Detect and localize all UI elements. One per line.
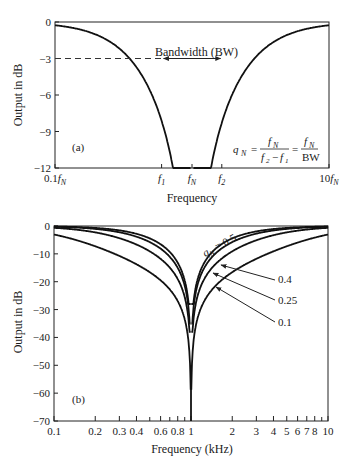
svg-text:1: 1 [285,157,289,165]
chart-a-x-axis: 0.1fNf1fNf210fN [44,164,339,187]
chart-a-xlabel: Frequency [167,191,218,205]
legend-q01: 0.1 [278,316,292,328]
svg-text:−10: −10 [33,248,51,260]
curve-0.5 [54,227,328,305]
legend-pointers [213,265,275,322]
svg-text:0.6: 0.6 [154,425,168,437]
svg-text:4: 4 [271,425,277,437]
svg-text:10: 10 [323,425,335,437]
svg-text:6: 6 [295,425,301,437]
svg-text:−20: −20 [33,276,51,288]
bandwidth-label: Bandwidth (BW) [155,45,238,59]
chart-a-frame [55,22,329,168]
svg-text:=: = [292,143,298,155]
chart-b: 0−10−20−30−40−50−60−70 0.10.20.30.40.60.… [11,220,334,456]
svg-text:=: = [251,143,257,155]
legend-q05: qN = 0.5 [200,231,240,262]
svg-text:0.1: 0.1 [47,425,61,437]
chart-b-xlabel: Frequency (kHz) [151,442,233,456]
svg-text:−9: −9 [39,126,51,138]
svg-text:0.2: 0.2 [88,425,102,437]
svg-text:0.4: 0.4 [130,425,144,437]
svg-text:−50: −50 [33,359,51,371]
svg-text:−: − [272,151,278,163]
svg-text:BW: BW [302,151,320,163]
svg-text:0.1fN: 0.1fN [44,172,67,187]
svg-text:3: 3 [254,425,260,437]
chart-a: 0−3−6−9−12 0.1fNf1fNf210fN Bandwidth (BW… [11,16,339,205]
svg-text:2: 2 [229,425,235,437]
svg-text:f2: f2 [218,172,225,187]
svg-text:0.3: 0.3 [112,425,126,437]
chart-b-ylabel: Output in dB [11,291,25,354]
svg-text:−6: −6 [39,89,51,101]
panel-b-label: (b) [72,393,85,406]
svg-text:2: 2 [266,157,270,165]
svg-text:5: 5 [284,425,290,437]
notch-filter-figure: 0−3−6−9−12 0.1fNf1fNf210fN Bandwidth (BW… [0,0,350,470]
svg-text:N: N [240,149,247,158]
svg-text:7: 7 [304,425,310,437]
q-formula: qN = fN f2 − f1 = fN BW [233,135,320,165]
svg-text:fN: fN [188,172,197,187]
svg-text:−30: −30 [33,304,51,316]
svg-text:0: 0 [46,16,52,28]
chart-a-ylabel: Output in dB [11,64,25,127]
svg-text:8: 8 [312,425,318,437]
svg-text:f1: f1 [158,172,165,187]
svg-text:0: 0 [45,220,51,232]
svg-text:10fN: 10fN [319,172,339,187]
panel-a-label: (a) [72,141,85,154]
svg-text:−40: −40 [33,331,51,343]
svg-text:q: q [233,143,239,155]
svg-text:−3: −3 [39,53,51,65]
svg-text:1: 1 [188,425,194,437]
legend-q025: 0.25 [278,294,298,306]
svg-text:0.8: 0.8 [171,425,185,437]
svg-text:−60: −60 [33,387,51,399]
legend-q04: 0.4 [278,273,292,285]
